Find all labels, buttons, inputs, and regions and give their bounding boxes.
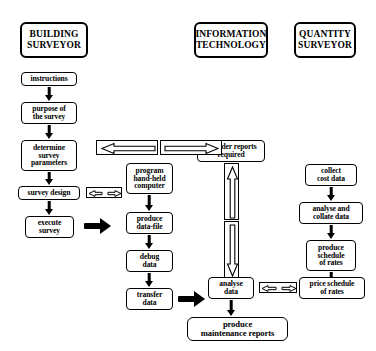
node-produce-data-file: produce data-file xyxy=(126,212,173,234)
outline-arrow-analyse-data-to-price-schedule xyxy=(259,282,297,293)
node-execute-survey: execute survey xyxy=(25,216,74,238)
block-arrow-execute-survey-to-produce-data-file xyxy=(84,217,111,235)
header-line-2: SURVEYOR xyxy=(298,40,352,51)
node-analyse-data: analyse data xyxy=(208,277,254,299)
node-program-hand-held-computer: program hand-held computer xyxy=(126,163,173,194)
column-header-building-surveyor: BUILDING SURVEYOR xyxy=(20,22,88,58)
node-label-line-3: computer xyxy=(133,182,165,190)
node-produce-maintenance-reports: produce maintenance reports xyxy=(187,317,288,341)
arrow-produce-data-file-to-debug xyxy=(141,235,157,249)
node-produce-schedule-of-rates: produce schedule of rates xyxy=(306,240,356,271)
node-determine-survey-parameters: determine survey parameters xyxy=(21,140,77,171)
arrow-collect-to-analyse-collate xyxy=(323,187,339,201)
header-line-2: TECHNOLOGY xyxy=(195,40,266,51)
arrow-debug-to-transfer xyxy=(141,273,157,287)
header-line-1: BUILDING xyxy=(27,29,81,40)
node-label-line-3: parameters xyxy=(31,159,67,167)
node-instructions: instructions xyxy=(21,72,77,86)
arrow-analyse-collate-to-produce-schedule xyxy=(323,225,339,239)
node-transfer-data: transfer data xyxy=(126,288,173,310)
outline-arrow-up-analyse-to-consider xyxy=(224,163,239,220)
node-label-line-2: maintenance reports xyxy=(201,329,275,338)
arrow-program-to-produce-data-file xyxy=(141,195,157,211)
header-line-1: QUANTITY xyxy=(298,29,352,40)
arrow-analyse-data-to-produce-maintenance-reports xyxy=(223,300,239,316)
node-collect-cost-data: collect cost data xyxy=(305,164,357,186)
node-label-line-2: data-file xyxy=(136,223,162,231)
node-survey-design: survey design xyxy=(18,186,80,200)
outline-arrow-survey-design-to-program xyxy=(86,187,122,198)
node-debug-data: debug data xyxy=(126,250,173,272)
column-header-information-technology: INFORMATION TECHNOLOGY xyxy=(194,22,268,58)
arrow-determine-to-survey-design xyxy=(41,172,57,185)
column-header-quantity-surveyor: QUANTITY SURVEYOR xyxy=(294,22,356,58)
header-line-1: INFORMATION xyxy=(195,29,266,40)
block-arrow-transfer-data-to-analyse-data xyxy=(178,290,205,308)
node-label-line-2: the survey xyxy=(32,113,65,121)
node-label: survey design xyxy=(28,189,71,197)
header-line-2: SURVEYOR xyxy=(27,40,81,51)
node-label: instructions xyxy=(30,75,67,83)
node-label-line-2: data xyxy=(137,299,162,307)
outline-arrow-left-survey-to-it xyxy=(96,140,158,155)
node-label-line-2: collate data xyxy=(312,213,349,221)
outline-arrow-right-it-to-survey xyxy=(160,140,222,155)
flowchart-canvas: BUILDING SURVEYOR INFORMATION TECHNOLOGY… xyxy=(0,0,376,351)
node-label-line-2: data xyxy=(219,288,242,296)
node-label-line-2: data xyxy=(140,261,159,269)
node-analyse-and-collate-data: analyse and collate data xyxy=(299,202,363,224)
node-label-line-3: of rates xyxy=(317,259,344,267)
node-purpose-of-the-survey: purpose of the survey xyxy=(21,102,77,124)
outline-arrow-down-consider-to-analyse xyxy=(224,221,239,278)
arrow-survey-design-to-execute xyxy=(41,201,57,215)
arrow-instructions-to-purpose xyxy=(41,87,57,101)
node-label-line-2: cost data xyxy=(317,175,345,183)
node-label-line-2: survey xyxy=(38,227,61,235)
arrow-purpose-to-determine xyxy=(41,125,57,139)
node-price-schedule-of-rates: price schedule of rates xyxy=(299,277,365,299)
node-label-line-2: of rates xyxy=(310,288,355,296)
